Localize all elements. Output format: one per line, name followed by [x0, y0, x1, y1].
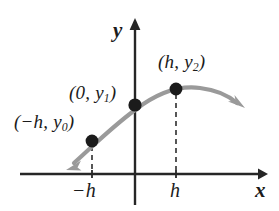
x-tick-label-neg-h: −h — [72, 180, 96, 200]
left-point-label-suffix: ) — [68, 111, 75, 132]
x-axis-label: x — [255, 180, 266, 201]
origin-point-marker — [128, 98, 141, 111]
y-axis-arrowhead-icon — [130, 18, 141, 30]
left-point-label-prefix: (−h, y — [14, 111, 62, 132]
right-point-label-prefix: (h, y — [158, 51, 193, 72]
origin-point-label-suffix: ) — [110, 82, 117, 103]
right-point-label-suffix: ) — [199, 51, 206, 72]
origin-point-label: (0, y1) — [69, 83, 116, 104]
right-point-marker — [170, 83, 183, 96]
right-point-label: (h, y2) — [158, 52, 205, 73]
coordinate-plane-figure: y x −h h (−h, y0) (0, y1) (h, y2) — [0, 0, 279, 211]
figure-canvas — [0, 0, 279, 211]
origin-point-label-prefix: (0, y — [69, 82, 104, 103]
left-point-label: (−h, y0) — [14, 112, 74, 133]
left-point-marker — [86, 135, 99, 148]
y-axis-label: y — [113, 20, 123, 41]
x-tick-label-pos-h: h — [170, 180, 180, 200]
